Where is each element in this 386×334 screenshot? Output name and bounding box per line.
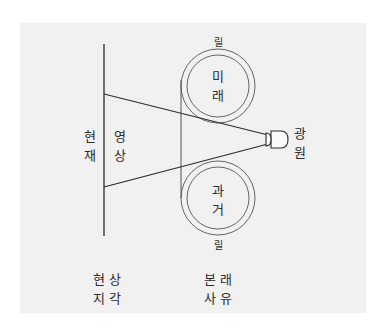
caption-phenomenal-perception: 현상 지각 bbox=[90, 270, 128, 308]
light-char-1: 광 bbox=[292, 124, 308, 143]
lamp-icon bbox=[266, 131, 288, 148]
future-char-2: 래 bbox=[210, 86, 226, 105]
image-char-1: 영 bbox=[112, 127, 128, 146]
projector-diagram bbox=[0, 0, 386, 334]
present-char-1: 현 bbox=[82, 127, 98, 146]
caption-original-thought: 본래 사유 bbox=[201, 270, 239, 308]
image-label: 영 상 bbox=[112, 127, 128, 165]
beam-upper bbox=[104, 94, 268, 135]
future-label: 미 래 bbox=[210, 67, 226, 105]
caption-right-line2: 사유 bbox=[201, 289, 239, 308]
light-source-label: 광 원 bbox=[292, 124, 308, 162]
future-char-1: 미 bbox=[210, 67, 226, 86]
caption-right-line1: 본래 bbox=[201, 270, 239, 289]
image-char-2: 상 bbox=[112, 146, 128, 165]
caption-left-line2: 지각 bbox=[90, 289, 128, 308]
caption-left-line1: 현상 bbox=[90, 270, 128, 289]
light-char-2: 원 bbox=[292, 143, 308, 162]
past-char-2: 거 bbox=[210, 200, 226, 219]
reel-bottom-label: 릴 bbox=[203, 236, 233, 255]
reel-top-label: 릴 bbox=[203, 33, 233, 52]
past-char-1: 과 bbox=[210, 181, 226, 200]
present-label: 현 재 bbox=[82, 127, 98, 165]
past-label: 과 거 bbox=[210, 181, 226, 219]
present-char-2: 재 bbox=[82, 146, 98, 165]
